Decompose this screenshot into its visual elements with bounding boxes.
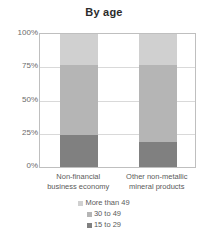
y-axis-tick-label: 0%: [2, 162, 38, 170]
chart-container: By age 0%25%50%75%100% Non-financialbusi…: [0, 0, 208, 240]
chart-title: By age: [0, 6, 208, 18]
legend-item[interactable]: More than 49: [78, 198, 129, 208]
legend-label: 15 to 29: [94, 220, 121, 230]
x-axis-category-labels: Non-financialbusiness economyOther non-m…: [39, 172, 196, 198]
legend-label: 30 to 49: [94, 209, 121, 219]
bar-segment: [139, 34, 177, 65]
y-axis-tick-label: 75%: [2, 62, 38, 70]
legend-label: More than 49: [85, 198, 129, 208]
bar-segment: [60, 65, 98, 135]
legend-swatch-icon: [78, 201, 83, 206]
bar-stack: [139, 34, 177, 167]
legend-item[interactable]: 30 to 49: [87, 209, 121, 219]
x-axis-label-line: mineral products: [118, 182, 197, 192]
x-axis-label-line: business economy: [39, 182, 118, 192]
legend-item[interactable]: 15 to 29: [87, 220, 121, 230]
x-axis-category-label: Other non-metallicmineral products: [118, 172, 197, 198]
y-axis-tick-label: 50%: [2, 96, 38, 104]
y-axis-tick-label: 100%: [2, 29, 38, 37]
bar-stack: [60, 34, 98, 167]
bar-segment: [60, 34, 98, 65]
bar-segment: [60, 135, 98, 167]
plot-area: [39, 33, 196, 168]
legend-swatch-icon: [87, 212, 92, 217]
bar-segment: [139, 142, 177, 167]
chart-legend: More than 4930 to 4915 to 29: [0, 198, 208, 230]
x-axis-category-label: Non-financialbusiness economy: [39, 172, 118, 198]
x-axis-label-line: Other non-metallic: [118, 172, 197, 182]
x-axis-label-line: Non-financial: [39, 172, 118, 182]
y-axis-tick-label: 25%: [2, 129, 38, 137]
legend-swatch-icon: [87, 223, 92, 228]
bar-segment: [139, 65, 177, 142]
